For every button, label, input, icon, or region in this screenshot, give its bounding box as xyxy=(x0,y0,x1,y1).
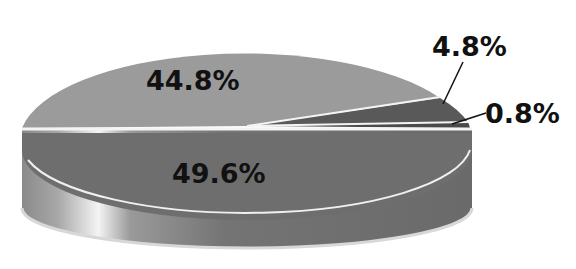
pie-chart: 44.8% 49.6% 4.8% 0.8% xyxy=(0,0,576,269)
label-4-8: 4.8% xyxy=(432,31,507,62)
leader-line-4-8 xyxy=(443,62,463,104)
label-44-8: 44.8% xyxy=(146,65,240,96)
label-49-6: 49.6% xyxy=(172,158,266,189)
label-0-8: 0.8% xyxy=(485,98,560,129)
